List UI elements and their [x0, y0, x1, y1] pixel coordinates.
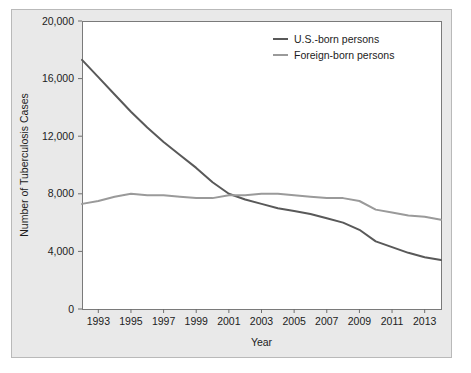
- legend-label-us-born: U.S.-born persons: [294, 33, 379, 45]
- y-tick-label: 4,000: [48, 245, 74, 257]
- y-tick-label: 0: [68, 303, 74, 315]
- x-tick-label: 2005: [282, 315, 306, 327]
- x-tick-label: 2001: [217, 315, 241, 327]
- y-tick-label: 16,000: [42, 72, 74, 84]
- plot-area: [83, 22, 442, 310]
- x-tick-label: 1993: [87, 315, 111, 327]
- x-tick-label: 2007: [315, 315, 339, 327]
- x-axis-title: Year: [251, 336, 273, 348]
- y-tick-label: 20,000: [42, 15, 74, 27]
- y-tick-label: 8,000: [48, 187, 74, 199]
- x-tick-label: 1995: [119, 315, 143, 327]
- x-tick-label: 2013: [413, 315, 437, 327]
- line-chart: 04,0008,00012,00016,00020,00019931995199…: [0, 0, 471, 373]
- legend-label-foreign-born: Foreign-born persons: [294, 49, 394, 61]
- x-tick-label: 2009: [348, 315, 372, 327]
- x-tick-label: 2003: [250, 315, 274, 327]
- x-tick-label: 2011: [381, 315, 404, 327]
- x-tick-label: 1999: [185, 315, 209, 327]
- y-tick-label: 12,000: [42, 130, 74, 142]
- figure-container: 04,0008,00012,00016,00020,00019931995199…: [0, 0, 471, 373]
- y-axis-title: Number of Tuberculosis Cases: [18, 93, 30, 237]
- x-tick-label: 1997: [152, 315, 176, 327]
